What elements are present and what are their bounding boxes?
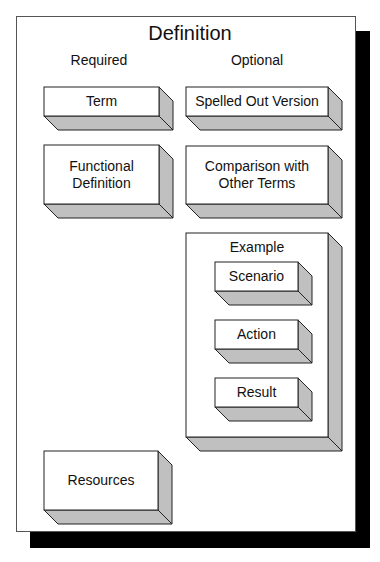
frame-shadow-right: [356, 31, 370, 548]
box-action-label: Action: [215, 320, 298, 349]
box-scenario-label: Scenario: [215, 262, 298, 291]
frame-shadow-bottom: [30, 532, 370, 548]
box-functional-definition-label: Functional Definition: [44, 145, 159, 204]
box-term-label: Term: [44, 87, 159, 116]
column-header-optional: Optional: [186, 52, 328, 68]
box-resources-label: Resources: [44, 451, 158, 510]
column-header-required: Required: [44, 52, 154, 68]
box-result-label: Result: [215, 378, 298, 407]
box-comparison-label: Comparison with Other Terms: [186, 146, 328, 204]
box-example-label: Example: [186, 233, 328, 263]
diagram-title: Definition: [0, 22, 380, 45]
box-spelled-out-version-label: Spelled Out Version: [186, 87, 328, 116]
